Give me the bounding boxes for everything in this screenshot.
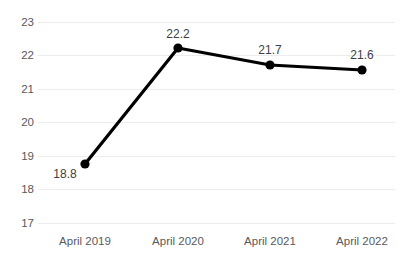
data-point-marker-1 xyxy=(173,43,182,52)
x-axis-tick-april-2021: April 2021 xyxy=(222,236,318,248)
x-axis-tick-april-2019: April 2019 xyxy=(37,236,133,248)
data-point-marker-3 xyxy=(357,65,366,74)
data-point-label-0: 18.8 xyxy=(35,168,95,180)
plot-area: 23 22 21 20 19 18 17 18.8 22.2 21.7 21.6… xyxy=(0,0,420,271)
x-axis-tick-april-2022: April 2022 xyxy=(314,236,410,248)
x-axis-tick-april-2020: April 2020 xyxy=(130,236,226,248)
data-point-label-2: 21.7 xyxy=(240,44,300,56)
data-point-marker-2 xyxy=(265,60,274,69)
data-point-label-3: 21.6 xyxy=(332,49,392,61)
line-chart: 23 22 21 20 19 18 17 18.8 22.2 21.7 21.6… xyxy=(0,0,420,271)
data-point-label-1: 22.2 xyxy=(148,28,208,40)
data-series-line xyxy=(0,0,420,271)
series-polyline xyxy=(85,48,362,164)
